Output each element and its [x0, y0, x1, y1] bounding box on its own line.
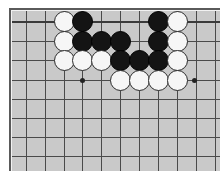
- white-stone-r3c4[interactable]: [72, 50, 93, 71]
- grid-line-horizontal-1: [12, 21, 220, 23]
- star-point-hoshi-right: [192, 78, 197, 83]
- grid-line-horizontal-8: [12, 156, 220, 157]
- white-stone-r4c6[interactable]: [110, 70, 131, 91]
- grid-line-vertical-7: [139, 11, 140, 171]
- white-stone-r4c9[interactable]: [167, 70, 188, 91]
- white-stone-r2c9[interactable]: [167, 31, 188, 52]
- grid-line-horizontal-7: [12, 137, 220, 138]
- black-stone-r1c4[interactable]: [72, 11, 93, 32]
- grid-line-horizontal-6: [12, 118, 220, 119]
- black-stone-r3c6[interactable]: [110, 50, 131, 71]
- black-stone-r2c6[interactable]: [110, 31, 131, 52]
- black-stone-r2c4[interactable]: [72, 31, 93, 52]
- star-point-hoshi-left: [80, 78, 85, 83]
- black-stone-r1c8[interactable]: [148, 11, 169, 32]
- white-stone-r4c7[interactable]: [129, 70, 150, 91]
- white-stone-r3c9[interactable]: [167, 50, 188, 71]
- white-stone-r4c8[interactable]: [148, 70, 169, 91]
- grid-line-horizontal-5: [12, 99, 220, 100]
- go-board-surface[interactable]: [12, 11, 220, 171]
- grid-line-vertical-11: [215, 11, 216, 171]
- grid-line-vertical-10: [196, 11, 197, 171]
- black-stone-r2c8[interactable]: [148, 31, 169, 52]
- white-stone-r1c9[interactable]: [167, 11, 188, 32]
- black-stone-r3c7[interactable]: [129, 50, 150, 71]
- grid-line-vertical-2: [45, 11, 46, 171]
- black-stone-r2c5[interactable]: [91, 31, 112, 52]
- grid-line-vertical-1: [26, 11, 27, 171]
- go-board-figure: [0, 0, 220, 171]
- white-stone-r3c5[interactable]: [91, 50, 112, 71]
- black-stone-r3c8[interactable]: [148, 50, 169, 71]
